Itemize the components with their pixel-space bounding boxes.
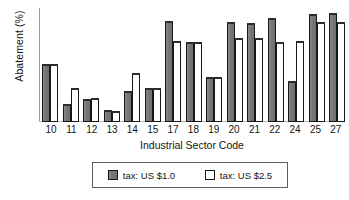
x-tick-label: 15	[144, 124, 162, 137]
bar	[247, 24, 255, 122]
bar	[268, 19, 276, 122]
bar	[153, 89, 161, 122]
x-tick-label: 17	[164, 124, 182, 137]
x-tick-label: 21	[245, 124, 263, 137]
x-axis-label: Industrial Sector Code	[39, 139, 345, 151]
x-tick-label: 19	[205, 124, 223, 137]
bar-group	[268, 8, 284, 122]
bar	[71, 89, 79, 122]
bar-group	[288, 8, 304, 122]
chart-legend: tax: US $1.0 tax: US $2.5	[92, 162, 288, 188]
bar-groups	[42, 8, 345, 122]
bar	[124, 92, 132, 122]
bar	[317, 23, 325, 122]
bar-group	[309, 8, 325, 122]
bar-group	[83, 8, 99, 122]
plot-area	[39, 8, 345, 122]
bar-group	[227, 8, 243, 122]
bar	[329, 14, 337, 122]
bar	[186, 43, 194, 122]
bar	[296, 42, 304, 122]
legend-entry-tax-1: tax: US $1.0	[108, 170, 175, 181]
bar-group	[104, 8, 120, 122]
bar	[104, 111, 112, 122]
x-tick-label: 18	[184, 124, 202, 137]
x-tick-label: 20	[225, 124, 243, 137]
bar	[214, 78, 222, 122]
legend-entry-tax-2: tax: US $2.5	[205, 170, 272, 181]
legend-label-series2: tax: US $2.5	[220, 170, 272, 181]
bar	[235, 39, 243, 122]
x-tick-label: 27	[327, 124, 345, 137]
legend-label-series1: tax: US $1.0	[123, 170, 175, 181]
bar	[288, 82, 296, 122]
bar-group	[165, 8, 181, 122]
bar	[255, 39, 263, 122]
bar-group	[145, 8, 161, 122]
bar	[42, 65, 50, 122]
y-axis-line	[39, 8, 40, 122]
bar-group	[42, 8, 58, 122]
legend-swatch-series2	[205, 170, 215, 180]
x-tick-label: 13	[103, 124, 121, 137]
bar	[337, 23, 345, 122]
x-tick-label: 12	[83, 124, 101, 137]
bar-group	[329, 8, 345, 122]
bar	[145, 89, 153, 122]
bar	[63, 105, 71, 122]
bar	[227, 23, 235, 122]
x-tick-label: 14	[123, 124, 141, 137]
bar	[206, 78, 214, 122]
bar-group	[186, 8, 202, 122]
bar-group	[247, 8, 263, 122]
bar	[50, 65, 58, 122]
x-tick-label: 24	[286, 124, 304, 137]
bar-group	[206, 8, 222, 122]
x-axis-tick-labels: 101112131415171819202122242527	[42, 124, 345, 137]
bar	[112, 112, 120, 122]
x-tick-label: 22	[266, 124, 284, 137]
x-tick-label: 11	[62, 124, 80, 137]
bar-group	[63, 8, 79, 122]
bar	[132, 74, 140, 122]
bar	[165, 22, 173, 122]
bar	[83, 100, 91, 122]
bar-group	[124, 8, 140, 122]
bar	[309, 15, 317, 122]
y-axis-label: Abatement (%)	[13, 0, 25, 101]
bar	[194, 43, 202, 122]
legend-swatch-series1	[108, 170, 118, 180]
bar-chart-figure: Abatement (%) 10111213141517181920212224…	[0, 0, 349, 200]
bar	[276, 43, 284, 122]
x-tick-label: 10	[42, 124, 60, 137]
x-tick-label: 25	[306, 124, 324, 137]
bar	[91, 99, 99, 122]
bar	[173, 42, 181, 122]
